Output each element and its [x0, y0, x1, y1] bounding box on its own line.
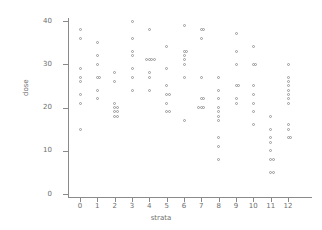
data-point: [202, 106, 205, 109]
data-point: [183, 119, 186, 122]
data-point: [217, 158, 220, 161]
data-point: [269, 115, 272, 118]
y-tick-label: 40: [28, 18, 52, 25]
data-point: [252, 93, 255, 96]
x-axis-label: strata: [0, 214, 322, 222]
data-point: [287, 97, 290, 100]
data-point: [183, 54, 186, 57]
data-point: [96, 89, 99, 92]
data-point: [148, 76, 151, 79]
data-point: [183, 58, 186, 61]
data-point: [148, 28, 151, 31]
data-point: [202, 28, 205, 31]
y-axis-line: [68, 18, 69, 198]
data-point: [217, 89, 220, 92]
data-point: [217, 145, 220, 148]
data-point: [252, 84, 255, 87]
data-point: [116, 110, 119, 113]
y-tick-mark: [63, 194, 68, 195]
y-tick-mark: [63, 151, 68, 152]
data-point: [217, 136, 220, 139]
x-tick-label: 7: [193, 203, 209, 210]
data-point: [287, 84, 290, 87]
data-point: [287, 63, 290, 66]
data-point: [252, 45, 255, 48]
data-point: [131, 67, 134, 70]
data-point: [289, 136, 292, 139]
data-point: [235, 63, 238, 66]
data-point: [113, 80, 116, 83]
data-point: [217, 115, 220, 118]
data-point: [98, 76, 101, 79]
y-tick-label: 0: [28, 191, 52, 198]
data-point: [79, 93, 82, 96]
data-point: [200, 76, 203, 79]
x-tick-label: 4: [141, 203, 157, 210]
x-tick-label: 3: [124, 203, 140, 210]
y-tick-label: 10: [28, 147, 52, 154]
y-tick-label: 30: [28, 61, 52, 68]
x-tick-label: 8: [211, 203, 227, 210]
data-point: [165, 45, 168, 48]
x-axis-line: [68, 197, 312, 198]
data-point: [79, 102, 82, 105]
data-point: [168, 110, 171, 113]
data-point: [116, 106, 119, 109]
data-point: [165, 102, 168, 105]
data-point: [287, 123, 290, 126]
data-point: [217, 110, 220, 113]
x-tick-label: 12: [280, 203, 296, 210]
data-point: [79, 37, 82, 40]
data-point: [79, 76, 82, 79]
data-point: [145, 58, 148, 61]
data-point: [272, 171, 275, 174]
data-point: [287, 89, 290, 92]
y-tick-mark: [63, 21, 68, 22]
x-tick-label: 6: [176, 203, 192, 210]
x-tick-label: 11: [263, 203, 279, 210]
data-point: [131, 37, 134, 40]
data-point: [165, 67, 168, 70]
data-point: [153, 58, 156, 61]
x-tick-label: 2: [107, 203, 123, 210]
data-point: [217, 76, 220, 79]
data-point: [252, 102, 255, 105]
data-point: [235, 50, 238, 53]
data-point: [217, 106, 220, 109]
data-point: [148, 71, 151, 74]
data-point: [96, 54, 99, 57]
data-point: [287, 102, 290, 105]
data-point: [131, 54, 134, 57]
data-point: [79, 67, 82, 70]
x-tick-label: 10: [245, 203, 261, 210]
y-tick-mark: [63, 108, 68, 109]
data-point: [183, 24, 186, 27]
data-point: [200, 37, 203, 40]
data-point: [183, 76, 186, 79]
data-point: [272, 158, 275, 161]
data-point: [269, 128, 272, 131]
data-point: [96, 97, 99, 100]
data-point: [269, 141, 272, 144]
data-point: [235, 97, 238, 100]
x-tick-label: 5: [159, 203, 175, 210]
data-point: [287, 93, 290, 96]
data-point: [131, 20, 134, 23]
data-point: [148, 89, 151, 92]
data-point: [269, 136, 272, 139]
y-tick-mark: [63, 64, 68, 65]
data-point: [185, 50, 188, 53]
data-point: [202, 97, 205, 100]
data-point: [254, 63, 257, 66]
data-point: [131, 76, 134, 79]
data-point: [79, 80, 82, 83]
data-point: [269, 149, 272, 152]
data-point: [252, 123, 255, 126]
x-tick-label: 9: [228, 203, 244, 210]
y-axis-label: dose: [22, 79, 30, 96]
data-point: [183, 63, 186, 66]
data-point: [287, 128, 290, 131]
data-point: [287, 76, 290, 79]
y-tick-label: 20: [28, 104, 52, 111]
x-tick-label: 0: [72, 203, 88, 210]
